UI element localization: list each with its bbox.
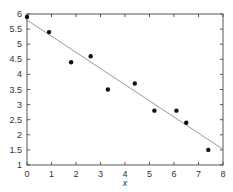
x-tick-label: 5 xyxy=(147,169,152,179)
data-point xyxy=(89,54,93,58)
data-point xyxy=(106,87,110,91)
y-tick-label: 4.5 xyxy=(9,54,22,64)
data-point xyxy=(47,30,51,34)
y-tick-label: 3.5 xyxy=(9,85,22,95)
x-axis-label: x xyxy=(122,178,128,188)
y-tick-label: 5 xyxy=(17,39,22,49)
y-tick-label: 3 xyxy=(17,100,22,110)
x-tick-label: 3 xyxy=(98,169,103,179)
x-tick-label: 6 xyxy=(171,169,176,179)
data-point xyxy=(206,148,210,152)
y-tick-label: 6 xyxy=(17,9,22,19)
y-tick-label: 4 xyxy=(17,69,22,79)
data-point xyxy=(184,121,188,125)
x-tick-label: 0 xyxy=(24,169,29,179)
y-tick-label: 5.5 xyxy=(9,24,22,34)
data-point xyxy=(25,15,29,19)
data-point xyxy=(152,108,156,112)
x-tick-label: 7 xyxy=(196,169,201,179)
plot-frame xyxy=(27,14,223,165)
data-point xyxy=(69,60,73,64)
y-tick-label: 1.5 xyxy=(9,145,22,155)
y-tick-label: 2.5 xyxy=(9,115,22,125)
data-point xyxy=(133,81,137,85)
data-point xyxy=(174,108,178,112)
regression-line xyxy=(27,20,223,149)
x-tick-label: 1 xyxy=(49,169,54,179)
x-tick-label: 2 xyxy=(73,169,78,179)
y-axis-ticks: 11.522.533.544.555.56 xyxy=(9,9,223,170)
scatter-chart: 012345678 11.522.533.544.555.56 x xyxy=(0,0,233,192)
data-points xyxy=(25,15,211,152)
x-tick-label: 8 xyxy=(220,169,225,179)
y-tick-label: 1 xyxy=(17,160,22,170)
y-tick-label: 2 xyxy=(17,130,22,140)
